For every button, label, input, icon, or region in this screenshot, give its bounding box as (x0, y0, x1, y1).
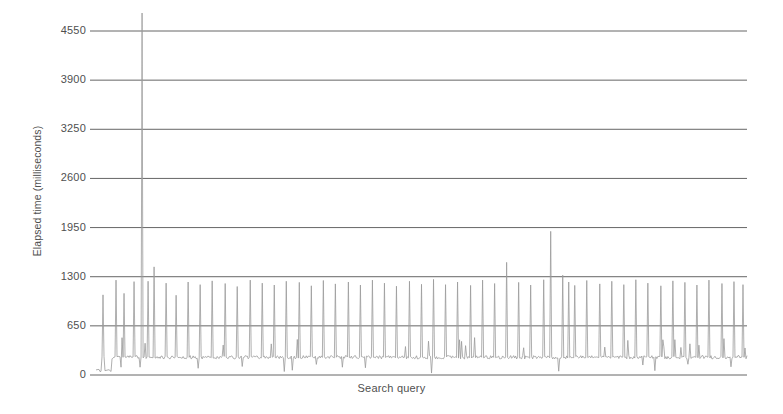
y-tick-label: 2600 (40, 172, 86, 183)
y-axis-title: Elapsed time (milliseconds) (31, 91, 43, 291)
plot-area (0, 0, 783, 414)
y-tick-label: 0 (40, 369, 86, 380)
y-tick-marks-group (90, 31, 96, 375)
y-tick-label: 3250 (40, 123, 86, 134)
y-tick-label: 4550 (40, 25, 86, 36)
y-tick-label: 3900 (40, 74, 86, 85)
chart-figure: 0650130019502600325039004550 Elapsed tim… (0, 0, 783, 414)
gridlines-group (96, 31, 747, 375)
y-tick-label: 650 (40, 320, 86, 331)
y-tick-label: 1950 (40, 222, 86, 233)
data-trace-line (96, 13, 747, 373)
y-tick-label: 1300 (40, 271, 86, 282)
x-axis-title: Search query (0, 382, 783, 394)
